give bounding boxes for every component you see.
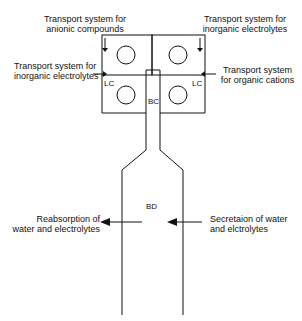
label-bc: BC [148, 97, 159, 107]
label-organic-cations: Transport system for organic cations [215, 65, 300, 85]
upper-right-cell [152, 35, 205, 75]
label-inorganic-electrolytes-left: Transport system for inorganic electroly… [14, 61, 99, 81]
bile-duct-right-wall [160, 150, 183, 315]
label-bd: BD [146, 202, 157, 212]
label-reabsorption: Reabsorption of water and electrolytes [10, 214, 100, 234]
label-inorganic-electrolytes-top: Transport system for inorganic electroly… [190, 14, 300, 34]
diagram-canvas [0, 0, 302, 321]
upper-left-cell [102, 35, 152, 75]
label-lc-left: LC [104, 79, 114, 89]
bile-duct-left-wall [122, 150, 146, 315]
label-anionic-compounds: Transport system for anionic compounds [30, 14, 140, 34]
label-secretion: Secretaion of water and elctrolytes [210, 214, 288, 234]
label-lc-right: LC [192, 79, 202, 89]
